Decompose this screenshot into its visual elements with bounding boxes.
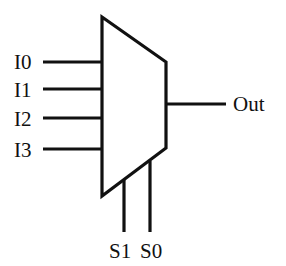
mux-diagram: I0 I1 I2 I3 Out S1 S0 — [0, 0, 286, 266]
input-label-i0: I0 — [14, 50, 32, 74]
select-label-s0: S0 — [140, 239, 162, 263]
mux-body — [102, 17, 166, 196]
select-label-s1: S1 — [109, 239, 131, 263]
output-label: Out — [233, 92, 265, 116]
input-label-i2: I2 — [14, 107, 32, 131]
input-label-i1: I1 — [14, 78, 32, 102]
input-label-i3: I3 — [14, 138, 32, 162]
